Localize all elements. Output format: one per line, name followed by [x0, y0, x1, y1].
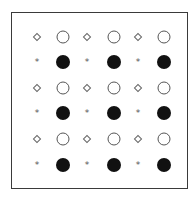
circle-filled-icon — [107, 106, 121, 120]
asterisk-icon: * — [134, 58, 142, 66]
asterisk-icon: * — [83, 58, 91, 66]
circle-filled-icon — [157, 55, 171, 69]
circle-open-icon — [108, 133, 121, 146]
circle-filled-icon — [56, 55, 70, 69]
asterisk-icon: * — [33, 161, 41, 169]
asterisk-icon: * — [83, 161, 91, 169]
circle-open-icon — [158, 82, 171, 95]
circle-filled-icon — [107, 55, 121, 69]
circle-filled-icon — [157, 158, 171, 172]
asterisk-icon: * — [134, 161, 142, 169]
circle-open-icon — [108, 82, 121, 95]
asterisk-icon: * — [134, 109, 142, 117]
circle-open-icon — [108, 31, 121, 44]
asterisk-icon: * — [33, 109, 41, 117]
circle-open-icon — [57, 133, 70, 146]
circle-open-icon — [158, 133, 171, 146]
asterisk-icon: * — [33, 58, 41, 66]
circle-filled-icon — [56, 158, 70, 172]
circle-filled-icon — [56, 106, 70, 120]
circle-filled-icon — [107, 158, 121, 172]
circle-open-icon — [57, 82, 70, 95]
circle-filled-icon — [157, 106, 171, 120]
asterisk-icon: * — [83, 109, 91, 117]
circle-open-icon — [57, 31, 70, 44]
circle-open-icon — [158, 31, 171, 44]
